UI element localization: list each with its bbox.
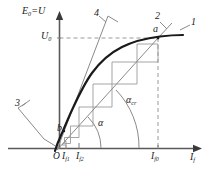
origin-label: O bbox=[53, 152, 60, 162]
build-up-staircase bbox=[62, 44, 158, 145]
x-tick-label-If0: If0 bbox=[151, 152, 159, 163]
angle-label-alpha: α bbox=[98, 118, 103, 128]
curve-label-1: 1 bbox=[191, 17, 196, 27]
curve-label-4: 4 bbox=[94, 8, 99, 18]
line-4-critical-resistance bbox=[57, 16, 118, 150]
angle-label-alpha-cr: αcr bbox=[126, 95, 136, 106]
line-3-shallow-resistance bbox=[18, 103, 60, 149]
line-2-field-resistance bbox=[57, 23, 172, 150]
x-axis-label: If bbox=[190, 152, 195, 163]
y-tick-label-U0: U0 bbox=[41, 31, 51, 42]
curve-label-2: 2 bbox=[155, 11, 160, 21]
self-excitation-diagram: E0=U U0 If O If1 If2 If0 a b 1 2 3 4 α α… bbox=[0, 0, 210, 172]
point-label-a: a bbox=[153, 24, 158, 34]
curve-label-3: 3 bbox=[15, 98, 20, 108]
point-label-b: b bbox=[57, 123, 62, 133]
diagram-canvas bbox=[0, 0, 210, 172]
y-axis-label: E0=U bbox=[22, 6, 45, 17]
x-tick-label-If1: If1 bbox=[62, 152, 70, 163]
x-tick-label-If2: If2 bbox=[76, 152, 84, 163]
x-axis bbox=[8, 145, 202, 152]
